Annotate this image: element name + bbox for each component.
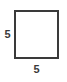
left-side-length-label: 5 (2, 29, 13, 40)
bottom-side-length-label: 5 (14, 64, 59, 75)
square-shape (14, 10, 59, 59)
geometry-figure: 5 5 (0, 0, 67, 82)
